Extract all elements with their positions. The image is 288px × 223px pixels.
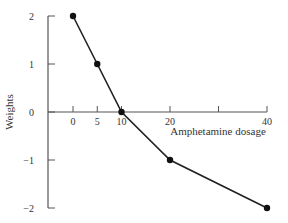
x-tick-label: 5 (95, 116, 100, 127)
y-tick-label: −2 (23, 203, 34, 214)
data-point-marker (94, 61, 100, 67)
data-point-marker (70, 13, 76, 19)
y-tick-label: 2 (29, 11, 34, 22)
x-tick-label: 10 (117, 116, 127, 127)
x-axis-label: Amphetamine dosage (170, 125, 266, 137)
y-tick-label: 0 (29, 107, 34, 118)
x-tick-label: 0 (71, 116, 76, 127)
data-point-marker (167, 157, 173, 163)
axes: 210−1−205102040 (23, 11, 272, 214)
y-tick-label: 1 (29, 59, 34, 70)
y-axis-label: Weights (3, 94, 15, 130)
data-point-marker (118, 109, 124, 115)
data-point-marker (264, 205, 270, 211)
y-tick-label: −1 (23, 155, 34, 166)
line-chart: 210−1−205102040 Amphetamine dosage Weigh… (0, 0, 288, 223)
